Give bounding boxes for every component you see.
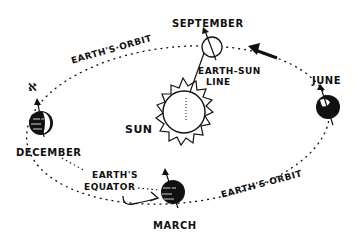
label-earth-sun-line-2: LINE [206, 77, 231, 88]
earth-march-icon [161, 168, 185, 208]
label-march: MARCH [153, 220, 197, 231]
december-leader [62, 158, 85, 171]
direction-arrow-icon [248, 43, 277, 58]
equator-arrow-icon [123, 192, 158, 204]
sun-icon [156, 78, 213, 145]
polaris-symbol: ℵ [28, 82, 37, 93]
label-equator-2: EQUATOR [84, 182, 135, 193]
equator-leader [138, 188, 158, 190]
label-september: SEPTEMBER [172, 18, 244, 29]
earth-december-icon [29, 98, 53, 137]
label-june: JUNE [312, 75, 341, 86]
earth-orbit-diagram: SEPTEMBER JUNE DECEMBER MARCH SUN EARTH-… [0, 0, 358, 239]
diagram-canvas [0, 0, 358, 239]
earth-june-icon [316, 84, 340, 125]
label-sun: SUN [125, 124, 153, 135]
label-equator-1: EARTH'S [92, 170, 138, 181]
label-december: DECEMBER [16, 147, 81, 158]
earth-september-icon [202, 27, 222, 60]
label-earth-sun-line-1: EARTH-SUN [198, 66, 261, 77]
